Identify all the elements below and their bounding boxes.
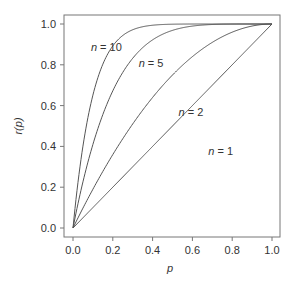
x-axis: 0.00.20.40.60.81.0 xyxy=(65,237,279,256)
x-tick-label: 0.0 xyxy=(65,244,80,256)
x-tick-label: 0.8 xyxy=(225,244,240,256)
curves xyxy=(73,24,272,228)
x-tick-label: 0.4 xyxy=(145,244,160,256)
x-tick-label: 0.6 xyxy=(185,244,200,256)
x-tick-label: 0.2 xyxy=(105,244,120,256)
y-tick-label: 1.0 xyxy=(41,18,56,30)
curve-label: n = 1 xyxy=(208,145,233,157)
curve-labels: n = 10n = 5n = 2n = 1 xyxy=(91,41,233,157)
y-tick-label: 0.2 xyxy=(41,181,56,193)
y-tick-label: 0.0 xyxy=(41,222,56,234)
curve-label: n = 2 xyxy=(178,106,203,118)
y-tick-label: 0.8 xyxy=(41,59,56,71)
y-axis: 0.00.20.40.60.81.0 xyxy=(41,18,64,234)
x-axis-label: p xyxy=(166,262,173,274)
curve-label: n = 5 xyxy=(139,57,164,69)
y-tick-label: 0.6 xyxy=(41,100,56,112)
chart: 0.00.20.40.60.81.0 0.00.20.40.60.81.0 n … xyxy=(0,0,295,283)
curve-label: n = 10 xyxy=(91,41,122,53)
y-tick-label: 0.4 xyxy=(41,140,56,152)
x-tick-label: 1.0 xyxy=(264,244,279,256)
curve-n1 xyxy=(73,24,272,228)
y-axis-label: r(p) xyxy=(12,117,24,134)
